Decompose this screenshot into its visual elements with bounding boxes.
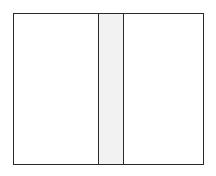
right-region xyxy=(124,14,203,164)
outer-rectangle xyxy=(13,13,204,165)
left-region xyxy=(14,14,98,164)
shaded-middle-strip xyxy=(98,14,124,164)
